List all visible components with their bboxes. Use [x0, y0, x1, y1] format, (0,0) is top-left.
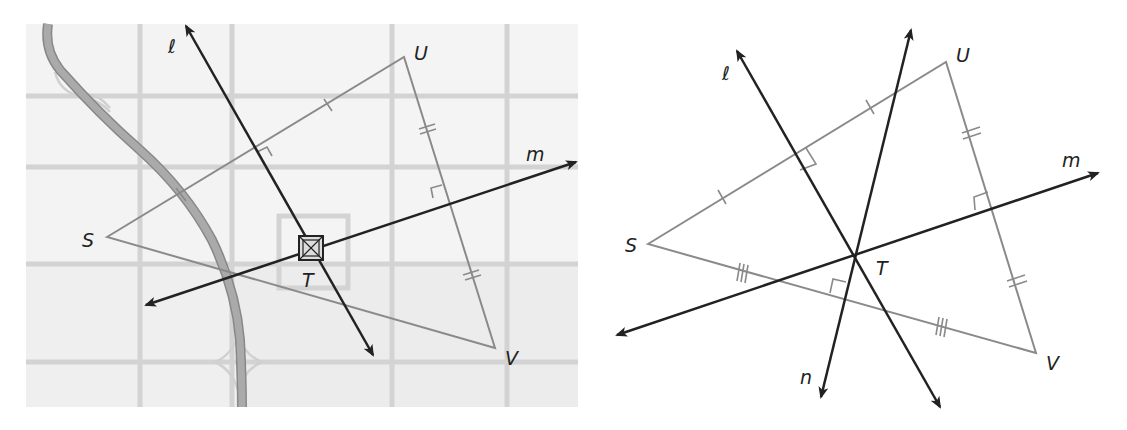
- point-label-V: V: [1046, 352, 1061, 374]
- point-label-S: S: [82, 229, 94, 251]
- point-label-T: T: [876, 257, 889, 279]
- bisector-line-n: [821, 30, 911, 397]
- geometry-figure: ℓ m n S U V T: [617, 30, 1098, 407]
- point-label-T: T: [302, 269, 315, 291]
- point-label-V: V: [505, 347, 520, 369]
- bisector-line-l: [737, 51, 940, 407]
- line-label-l: ℓ: [167, 35, 176, 57]
- line-label-l: ℓ: [721, 62, 730, 84]
- congruence-ticks: [718, 100, 1027, 337]
- bisector-line-m: [617, 173, 1098, 335]
- diagram-canvas: ℓ m S U V T: [0, 0, 1127, 430]
- point-label-U: U: [956, 44, 970, 66]
- map-figure: ℓ m S U V T: [26, 24, 578, 407]
- landmark-icon: [299, 236, 323, 260]
- point-label-S: S: [625, 234, 637, 256]
- line-label-m: m: [526, 143, 545, 165]
- line-label-m: m: [1062, 149, 1081, 171]
- point-label-U: U: [414, 42, 428, 64]
- line-label-n: n: [800, 366, 812, 388]
